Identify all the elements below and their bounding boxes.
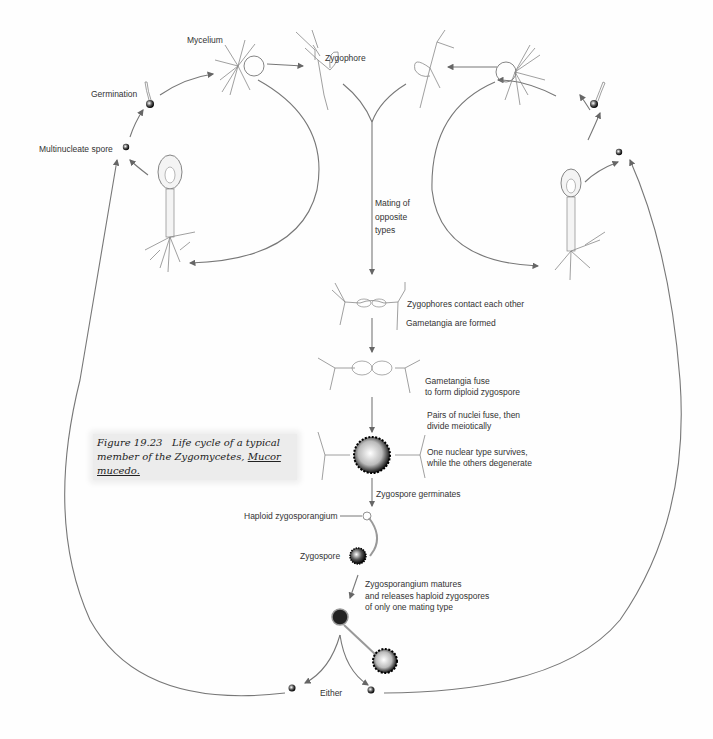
label-zygospore-germinates: Zygospore germinates — [376, 488, 461, 500]
label-zygophores-contact: Zygophores contact each other — [407, 298, 524, 310]
either-spore-right-icon — [368, 687, 375, 694]
label-mating-2: opposite — [375, 211, 407, 223]
label-germination: Germination — [91, 88, 137, 100]
label-gametangia-formed: Gametangia are formed — [406, 317, 496, 329]
label-zygophore: Zygophore — [325, 52, 366, 64]
zygophores-contact-icon — [332, 282, 405, 330]
label-multinucleate-spore: Multinucleate spore — [39, 143, 113, 155]
right-mycelium-icon — [496, 45, 545, 105]
either-spore-left-icon — [289, 685, 296, 692]
diagram-artwork — [0, 0, 713, 739]
mating-line-left — [343, 84, 372, 122]
figure-caption: Figure 19.23 Life cycle of a typical mem… — [93, 434, 297, 480]
right-asexual-cycle — [415, 30, 623, 280]
label-mating-1: Mating of — [375, 197, 410, 209]
left-asexual-cycle — [123, 30, 339, 272]
label-mycelium: Mycelium — [187, 34, 223, 46]
zygospore-icon — [350, 548, 366, 564]
right-spore-icon — [616, 149, 622, 155]
label-nuclei-fuse-2: divide meiotically — [427, 420, 491, 432]
label-matures-3: of only one mating type — [365, 601, 453, 613]
diploid-zygospore-icon — [318, 432, 425, 480]
label-matures-1: Zygosporangium matures — [365, 578, 461, 590]
label-mating-3: types — [375, 224, 395, 236]
label-gametangia-fuse-2: to form diploid zygospore — [425, 386, 520, 398]
mycelium-icon — [215, 40, 264, 95]
return-loop-left — [65, 160, 285, 696]
mature-zygosporangium-icon — [332, 609, 397, 673]
gametangia-fuse-icon — [318, 358, 420, 393]
zygophore-right-icon — [415, 30, 454, 108]
mating-line-right — [372, 84, 406, 122]
multinucleate-spore-icon — [123, 144, 129, 150]
label-zygospore: Zygospore — [300, 550, 340, 562]
caption-prefix: Figure 19.23 — [97, 437, 162, 448]
germinating-spore-icon — [146, 100, 154, 108]
life-cycle-diagram: Mycelium Zygophore Germination Multinucl… — [0, 0, 713, 739]
label-haploid-zygosporangium: Haploid zygosporangium — [244, 510, 338, 522]
label-either: Either — [320, 687, 342, 699]
right-germinating-spore-icon — [590, 100, 598, 108]
label-nuclear-survives-2: while the others degenerate — [427, 457, 532, 469]
